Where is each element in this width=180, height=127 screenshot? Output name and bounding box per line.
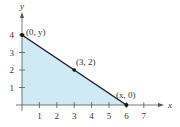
- point-label-x-0: (x, 0): [116, 90, 136, 100]
- svg-text:7: 7: [142, 111, 147, 121]
- point-label-3-2: (3, 2): [76, 57, 96, 67]
- svg-text:4: 4: [89, 111, 94, 121]
- svg-text:2: 2: [10, 65, 15, 75]
- point-6-0: [124, 103, 128, 107]
- svg-text:1: 1: [10, 83, 15, 93]
- x-tick-labels: 1 2 3 4 5 6 7: [37, 111, 146, 121]
- y-axis-arrow-icon: [20, 12, 24, 18]
- svg-text:2: 2: [55, 111, 60, 121]
- svg-text:3: 3: [72, 111, 77, 121]
- svg-text:5: 5: [107, 111, 112, 121]
- point-3-2: [72, 68, 76, 72]
- y-tick-labels: 1 2 3 4: [10, 30, 15, 93]
- svg-text:1: 1: [37, 111, 42, 121]
- point-label-0-y: (0, y): [26, 27, 46, 37]
- svg-text:4: 4: [10, 30, 15, 40]
- x-axis-label: x: [167, 100, 172, 110]
- svg-text:6: 6: [124, 111, 129, 121]
- svg-text:3: 3: [10, 48, 15, 58]
- y-axis-label: y: [19, 1, 24, 11]
- x-axis-arrow-icon: [158, 103, 164, 107]
- chart: 1 2 3 4 5 6 7 1 2 3 4 x y (0, y) (3, 2) …: [0, 0, 180, 127]
- point-0-4: [20, 33, 24, 37]
